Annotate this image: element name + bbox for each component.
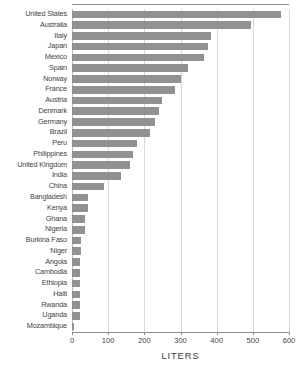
bar-row: Rwanda [0, 300, 303, 311]
bar-haiti [72, 291, 80, 299]
plot-area: United StatesAustraliaItalyJapanMexicoSp… [0, 9, 303, 332]
bar-row: Brazil [0, 127, 303, 138]
tick-label-500: 500 [246, 336, 259, 345]
category-label-rwanda: Rwanda [0, 300, 67, 311]
category-label-ghana: Ghana [0, 214, 67, 225]
bar-row: Niger [0, 246, 303, 257]
bar-track [72, 170, 289, 181]
bar-track [72, 310, 289, 321]
bar-row: United States [0, 9, 303, 20]
category-label-philippines: Philippines [0, 149, 67, 160]
category-label-ethiopia: Ethiopia [0, 278, 67, 289]
tick-mark-100 [108, 332, 109, 335]
bar-denmark [72, 107, 159, 115]
bar-row: Japan [0, 41, 303, 52]
bar-japan [72, 43, 208, 51]
bar-angola [72, 258, 80, 266]
tick-label-0: 0 [70, 336, 74, 345]
tick-mark-300 [181, 332, 182, 335]
bar-track [72, 84, 289, 95]
bar-track [72, 321, 289, 332]
category-label-italy: Italy [0, 31, 67, 42]
category-label-angola: Angola [0, 257, 67, 268]
bar-row: Spain [0, 63, 303, 74]
bar-united-states [72, 11, 281, 19]
category-label-kenya: Kenya [0, 203, 67, 214]
bar-ghana [72, 215, 85, 223]
bar-track [72, 192, 289, 203]
bar-row: India [0, 170, 303, 181]
category-label-bangladesh: Bangladesh [0, 192, 67, 203]
bar-cambodia [72, 269, 80, 277]
chart-top-border [72, 4, 289, 5]
tick-mark-500 [253, 332, 254, 335]
bar-track [72, 52, 289, 63]
category-label-niger: Niger [0, 246, 67, 257]
tick-label-300: 300 [174, 336, 187, 345]
bar-row: Ghana [0, 214, 303, 225]
bar-row: Angola [0, 257, 303, 268]
bar-row: Uganda [0, 310, 303, 321]
bar-row: Germany [0, 117, 303, 128]
tick-label-400: 400 [210, 336, 223, 345]
x-axis-title: LITERS [72, 350, 289, 361]
bar-india [72, 172, 121, 180]
bar-niger [72, 247, 81, 255]
bar-germany [72, 118, 155, 126]
category-label-nigeria: Nigeria [0, 224, 67, 235]
bar-row: Italy [0, 31, 303, 42]
category-label-france: France [0, 84, 67, 95]
bar-track [72, 257, 289, 268]
bar-track [72, 127, 289, 138]
bar-track [72, 95, 289, 106]
bar-mexico [72, 54, 204, 62]
category-label-spain: Spain [0, 63, 67, 74]
bar-track [72, 31, 289, 42]
bar-rwanda [72, 301, 80, 309]
bar-row: Haiti [0, 289, 303, 300]
bar-italy [72, 32, 211, 40]
bar-row: Bangladesh [0, 192, 303, 203]
bar-track [72, 160, 289, 171]
bar-mozambique [72, 323, 74, 331]
category-label-australia: Australia [0, 20, 67, 31]
bar-track [72, 278, 289, 289]
bar-peru [72, 140, 137, 148]
category-label-mozambique: Mozambique [0, 321, 67, 332]
bar-row: United Kingdom [0, 160, 303, 171]
bar-row: Mexico [0, 52, 303, 63]
category-label-cambodia: Cambodia [0, 267, 67, 278]
bar-track [72, 289, 289, 300]
bar-row: Philippines [0, 149, 303, 160]
category-label-united-states: United States [0, 9, 67, 20]
bar-track [72, 138, 289, 149]
bar-row: Kenya [0, 203, 303, 214]
bar-row: China [0, 181, 303, 192]
bar-china [72, 183, 104, 191]
bar-rows: United StatesAustraliaItalyJapanMexicoSp… [0, 9, 303, 332]
category-label-india: India [0, 170, 67, 181]
category-label-brazil: Brazil [0, 127, 67, 138]
bar-ethiopia [72, 280, 80, 288]
tick-mark-200 [144, 332, 145, 335]
bar-spain [72, 64, 188, 72]
bar-philippines [72, 151, 133, 159]
category-label-burkina-faso: Burkina Faso [0, 235, 67, 246]
category-label-germany: Germany [0, 117, 67, 128]
tick-mark-0 [72, 332, 73, 335]
bar-norway [72, 75, 181, 83]
bar-track [72, 300, 289, 311]
category-label-denmark: Denmark [0, 106, 67, 117]
category-label-mexico: Mexico [0, 52, 67, 63]
bar-uganda [72, 312, 80, 320]
bar-row: Australia [0, 20, 303, 31]
bar-row: Ethiopia [0, 278, 303, 289]
bar-france [72, 86, 175, 94]
bar-united-kingdom [72, 161, 130, 169]
bar-row: Denmark [0, 106, 303, 117]
tick-mark-600 [289, 332, 290, 335]
bar-bangladesh [72, 194, 88, 202]
bar-track [72, 9, 289, 20]
bar-track [72, 149, 289, 160]
category-label-united-kingdom: United Kingdom [0, 160, 67, 171]
